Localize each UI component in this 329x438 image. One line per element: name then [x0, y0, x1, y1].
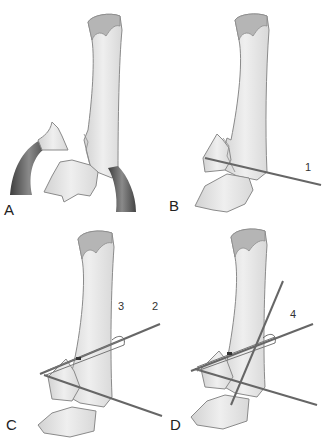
lower-bone — [191, 395, 249, 429]
pin-junction — [227, 352, 232, 355]
panel-a: A — [0, 0, 164, 219]
lower-bone — [195, 174, 253, 212]
panel-b: 1 B — [165, 0, 329, 219]
panel-c-illustration — [0, 219, 164, 438]
pin-label-2: 2 — [152, 301, 158, 312]
panel-label-a: A — [4, 202, 14, 217]
panel-label-c: C — [6, 417, 17, 432]
panel-d: 4 D — [165, 219, 329, 438]
lower-bone — [44, 160, 98, 202]
panel-d-illustration — [165, 219, 329, 438]
tendon-right — [108, 166, 136, 212]
panel-b-illustration — [165, 0, 329, 219]
panel-a-illustration — [0, 0, 164, 219]
panel-label-d: D — [170, 417, 181, 432]
panel-c: 3 2 C — [0, 219, 164, 438]
lower-bone — [38, 407, 96, 437]
pin-junction — [76, 357, 81, 360]
pin-label-3: 3 — [118, 301, 124, 312]
fracture-fixation-figure: A 1 B 3 2 C — [0, 0, 329, 438]
main-bone — [84, 14, 122, 178]
pin-label-4: 4 — [290, 309, 296, 320]
panel-label-b: B — [169, 198, 179, 213]
bone-fragment — [38, 122, 68, 150]
pin-label-1: 1 — [305, 162, 311, 173]
